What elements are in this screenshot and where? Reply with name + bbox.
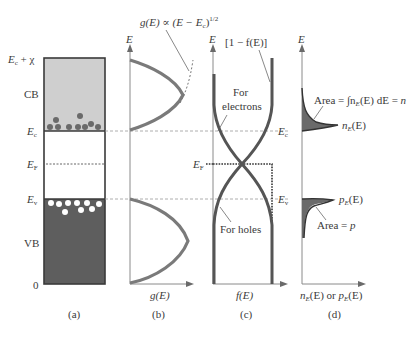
hole-dot [62, 209, 68, 215]
electron-dot [82, 124, 88, 130]
semiconductor-band-diagram-figure: Ec + χ CB Ec EF Ev VB 0 (a) E [0, 0, 419, 337]
caption-d: (d) [328, 308, 341, 321]
electron-dot [47, 124, 53, 130]
y-axis-label-c: E [208, 33, 216, 45]
hole-dot [84, 200, 90, 206]
label-ef: EF [26, 158, 38, 172]
caption-b: (b) [152, 308, 165, 321]
hole-dot [74, 200, 80, 206]
label-cb: CB [24, 88, 39, 100]
label-zero: 0 [33, 279, 39, 291]
pointer-one-minus-f [259, 50, 270, 82]
x-axis-arrow-b [186, 281, 194, 287]
hole-dot [89, 206, 95, 212]
hole-dot [56, 201, 62, 207]
y-axis-arrow-c [210, 44, 216, 52]
label-vb: VB [24, 237, 39, 249]
x-axis-label-c: f(E) [236, 289, 253, 302]
annotation-pointer-b [166, 30, 189, 71]
label-ec-c: Ec [277, 125, 288, 139]
panel-d-carrier-concentration: E Area = ∫nE(E) dE = n nE(E) pE(E) Area … [297, 33, 407, 321]
x-axis-arrow-c [280, 281, 288, 287]
hole-dot [96, 201, 102, 207]
label-one-minus-f: [1 − f(E)] [225, 36, 267, 49]
electron-dot [55, 124, 61, 130]
panel-b-density-of-states: E g(E) ∝ (E − Ec)1/2 g(E) (b) [125, 15, 219, 321]
label-p-curve: pE(E) [338, 193, 363, 207]
electron-dot [88, 121, 94, 127]
electron-dot [53, 117, 59, 123]
y-axis-arrow-b [127, 44, 133, 52]
cb-dos-curve [130, 60, 183, 130]
label-n-curve: nE(E) [342, 119, 366, 133]
label-ec-plus-chi: Ec + χ [7, 53, 35, 67]
label-p-area: Area = p [317, 219, 356, 231]
label-ef-c: EF [192, 158, 204, 172]
label-ec: Ec [26, 125, 37, 139]
label-n-area: Area = ∫nE(E) dE = n [314, 94, 407, 108]
valence-band-region [44, 199, 105, 284]
x-axis-label-b: g(E) [150, 289, 170, 302]
caption-a: (a) [68, 308, 81, 321]
label-for-electrons-1: For [233, 86, 249, 98]
panel-c-fermi-dirac: E [1 − f(E)] For electrons For holes EF … [192, 33, 289, 321]
hole-dot [65, 200, 71, 206]
y-axis-arrow-d [299, 44, 305, 52]
x-axis-label-d: nE(E) or pE(E) [300, 289, 363, 303]
panel-a-band-diagram: Ec + χ CB Ec EF Ev VB 0 (a) [7, 53, 105, 321]
label-ev-c: Ev [277, 193, 289, 207]
electron-dot [77, 113, 83, 119]
electron-dot [66, 124, 72, 130]
pointer-n-area [314, 106, 323, 119]
pointer-holes [220, 207, 231, 222]
electron-dot [75, 124, 81, 130]
hole-dot [78, 207, 84, 213]
electron-dot [95, 124, 101, 130]
hole-dot [48, 200, 54, 206]
y-axis-label-d: E [297, 33, 305, 45]
label-for-electrons-2: electrons [222, 100, 262, 112]
label-ev: Ev [26, 193, 38, 207]
y-axis-label-b: E [125, 33, 133, 45]
vb-dos-curve [130, 199, 188, 283]
pointer-electrons [218, 115, 227, 131]
caption-c: (c) [240, 308, 253, 321]
label-for-holes: For holes [220, 223, 261, 235]
x-axis-arrow-d [358, 281, 366, 287]
dos-annotation: g(E) ∝ (E − Ec)1/2 [140, 15, 219, 30]
